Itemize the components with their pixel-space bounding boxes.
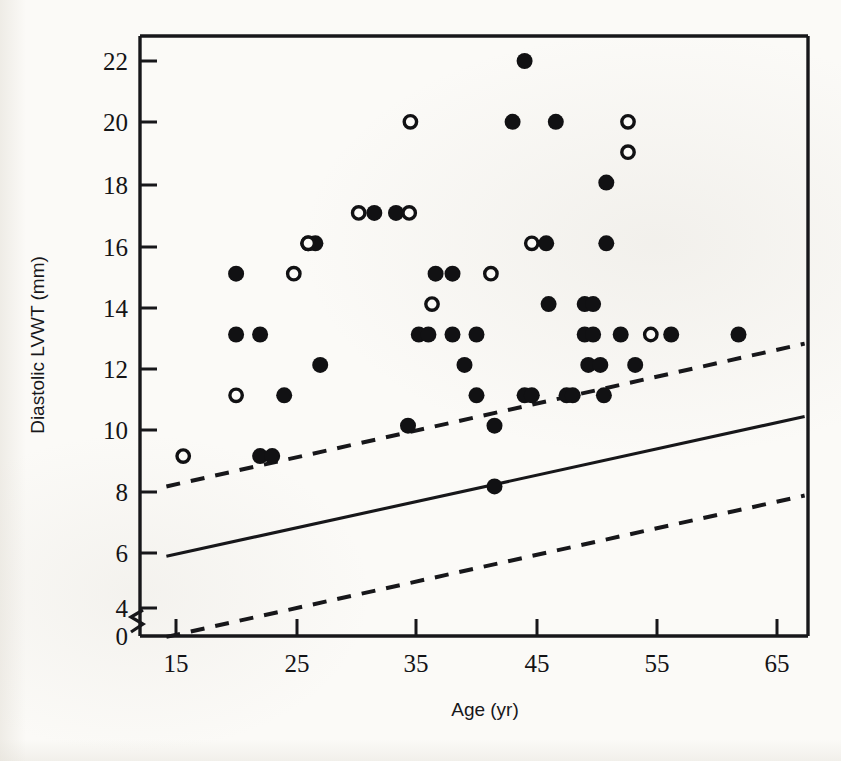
data-point-filled [469, 387, 485, 403]
y-tick-label: 18 [103, 172, 128, 199]
lower-prediction-limit [166, 496, 804, 637]
y-tick-label: 0 [116, 623, 129, 650]
data-point-open [404, 116, 416, 128]
data-point-filled [517, 53, 533, 69]
x-tick-label: 15 [164, 650, 189, 677]
data-point-filled [541, 296, 557, 312]
y-tick-label: 22 [103, 48, 128, 75]
y-tick-label: 20 [103, 109, 128, 136]
upper-prediction-limit [166, 344, 804, 487]
data-point-filled [469, 327, 485, 343]
data-point-open [403, 207, 415, 219]
data-point-filled [487, 418, 503, 434]
y-axis-tick-labels: 22 20 18 16 14 12 10 8 6 4 0 [103, 48, 129, 650]
x-axis-title: Age (yr) [451, 699, 519, 720]
y-axis-title: Diastolic LVWT (mm) [27, 256, 48, 434]
x-tick-label: 65 [765, 650, 790, 677]
data-point-filled [420, 327, 436, 343]
x-axis-ticks [176, 619, 777, 636]
data-points-layer [177, 53, 747, 494]
y-tick-label: 16 [103, 234, 128, 261]
data-point-open [288, 268, 300, 280]
data-point-filled [596, 387, 612, 403]
data-point-open [302, 237, 314, 249]
data-point-filled [731, 327, 747, 343]
data-point-filled [228, 327, 244, 343]
x-tick-label: 25 [285, 650, 310, 677]
y-tick-label: 14 [103, 295, 129, 322]
regression-mean [166, 417, 804, 557]
data-point-filled [264, 448, 280, 464]
data-point-open [426, 298, 438, 310]
data-point-filled [228, 266, 244, 282]
y-axis-ticks [140, 61, 157, 608]
data-point-filled [585, 327, 601, 343]
y-tick-label: 8 [116, 479, 129, 506]
data-point-open [353, 207, 365, 219]
data-point-filled [592, 357, 608, 373]
y-tick-label: 10 [103, 417, 128, 444]
data-point-filled [428, 266, 444, 282]
regression-lines-layer [166, 344, 804, 637]
data-point-open [230, 389, 242, 401]
data-point-open [485, 268, 497, 280]
data-point-filled [276, 387, 292, 403]
x-tick-label: 55 [645, 650, 670, 677]
figure-page: 22 20 18 16 14 12 10 8 6 4 0 15 25 35 45 [0, 0, 841, 761]
data-point-filled [400, 418, 416, 434]
data-point-open [177, 450, 189, 462]
x-tick-label: 35 [404, 650, 429, 677]
data-point-filled [524, 387, 540, 403]
data-point-filled [598, 175, 614, 191]
y-tick-label: 4 [116, 595, 129, 622]
data-point-filled [585, 296, 601, 312]
x-axis-tick-labels: 15 25 35 45 55 65 [164, 650, 790, 677]
data-point-open [622, 146, 634, 158]
scatter-plot: 22 20 18 16 14 12 10 8 6 4 0 15 25 35 45 [0, 0, 841, 761]
data-point-filled [627, 357, 643, 373]
data-point-filled [445, 266, 461, 282]
data-point-filled [613, 327, 629, 343]
data-point-filled [663, 327, 679, 343]
data-point-filled [538, 235, 554, 251]
data-point-filled [312, 357, 328, 373]
data-point-filled [457, 357, 473, 373]
x-tick-label: 45 [525, 650, 550, 677]
data-point-filled [366, 205, 382, 221]
data-point-filled [548, 114, 564, 130]
data-point-filled [445, 327, 461, 343]
data-point-open [622, 116, 634, 128]
data-point-open [526, 237, 538, 249]
data-point-filled [565, 387, 581, 403]
data-point-open [645, 328, 657, 340]
data-point-filled [598, 235, 614, 251]
y-tick-label: 6 [116, 540, 129, 567]
data-point-filled [252, 327, 268, 343]
data-point-filled [487, 478, 503, 494]
y-tick-label: 12 [103, 356, 128, 383]
data-point-filled [505, 114, 521, 130]
